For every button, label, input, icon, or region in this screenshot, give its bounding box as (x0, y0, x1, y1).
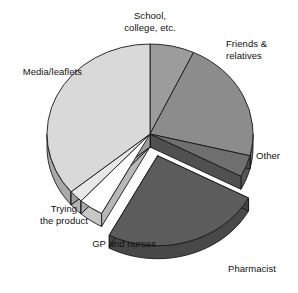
slice-label-gp-and-nurses: GP and nurses (62, 238, 156, 250)
slice-label-school: School, college, etc. (102, 10, 198, 33)
pie-chart: School, college, etc. Friends & relative… (0, 0, 298, 293)
slice-label-other: Other (256, 150, 298, 162)
slice-label-media-leaflets: Media/leaflets (2, 66, 82, 78)
slice-label-trying-the-product: Trying the product (22, 203, 106, 226)
slice-label-pharmacist: Pharmacist (228, 263, 298, 275)
slice-label-friends: Friends & relatives (226, 38, 298, 61)
